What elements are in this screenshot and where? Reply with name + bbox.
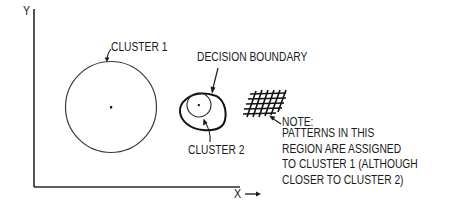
decision-boundary-shape	[180, 93, 226, 130]
cluster1-label: CLUSTER 1	[111, 40, 167, 55]
cluster2-pointer-icon	[205, 122, 210, 142]
cluster1-center-dot	[110, 106, 112, 109]
cluster2	[180, 68, 226, 142]
cluster2-label: CLUSTER 2	[188, 143, 244, 158]
note-text: PATTERNS IN THIS REGION ARE ASSIGNED TO …	[282, 126, 448, 188]
note-line: TO CLUSTER 1 (ALTHOUGH	[282, 157, 418, 173]
y-axis-label: Y	[23, 3, 30, 18]
cluster2-center-dot	[198, 104, 200, 106]
note-line: REGION ARE ASSIGNED	[282, 142, 418, 158]
cluster1	[66, 49, 157, 153]
boundary-pointer-icon	[213, 68, 218, 88]
hatched-region	[243, 90, 286, 117]
x-axis-label: X	[234, 186, 241, 201]
note-line: CLOSER TO CLUSTER 2)	[282, 173, 418, 189]
decision-boundary-label: DECISION BOUNDARY	[197, 50, 307, 65]
x-arrow-icon	[245, 192, 261, 197]
note-pointer-icon	[269, 116, 281, 125]
boundary-arrowhead-icon	[211, 87, 216, 95]
note-line: PATTERNS IN THIS	[282, 126, 418, 142]
